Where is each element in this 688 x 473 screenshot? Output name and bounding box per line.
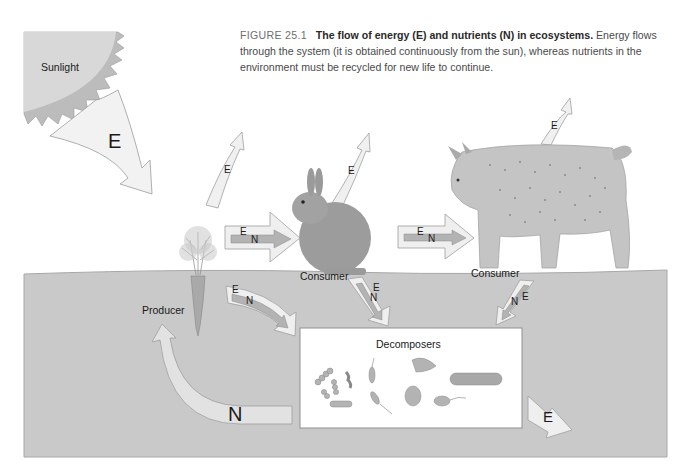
rabbit-consumer-label: Consumer — [300, 270, 348, 282]
rabbit-to-decomp-n-label: N — [370, 292, 377, 303]
producer-to-rabbit-n-label: N — [251, 234, 258, 245]
rabbit-to-lynx-n-label: N — [428, 233, 435, 244]
producer-heat-label: E — [224, 164, 231, 175]
ecosystem-diagram — [0, 0, 688, 473]
lynx-to-decomp-e-label: E — [522, 291, 529, 302]
lynx-consumer-icon — [448, 142, 632, 268]
producer-to-decomp-e-label: E — [232, 284, 239, 295]
rabbit-consumer-icon — [292, 168, 371, 275]
nutrient-recycle-label: N — [228, 403, 242, 426]
lynx-to-decomp-n-label: N — [511, 296, 518, 307]
lynx-consumer-label: Consumer — [471, 267, 519, 279]
rabbit-heat-label: E — [348, 165, 355, 176]
sun-energy-label: E — [108, 130, 121, 153]
producer-label: Producer — [142, 304, 185, 316]
rabbit-to-lynx-e-label: E — [417, 226, 424, 237]
sunlight-label: Sunlight — [41, 61, 79, 73]
lynx-heat-label: E — [551, 120, 558, 131]
producer-to-decomp-n-label: N — [246, 295, 253, 306]
decomposers-heat-label: E — [543, 408, 553, 425]
producer-to-rabbit-e-label: E — [240, 226, 247, 237]
decomposers-label: Decomposers — [376, 338, 441, 350]
